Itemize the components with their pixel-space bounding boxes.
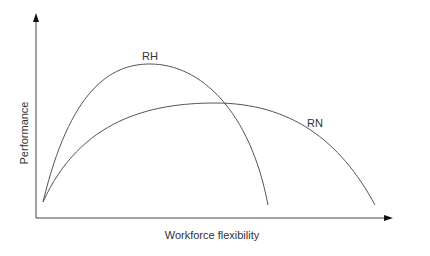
diagram-canvas: RH RN Workforce flexibility Performance (0, 0, 430, 256)
y-axis-label: Performance (18, 102, 30, 165)
x-axis-arrow-icon (384, 215, 393, 221)
curve-rh (43, 64, 268, 205)
curve-label-rh: RH (142, 50, 158, 62)
y-axis-arrow-icon (33, 13, 39, 22)
curve-label-rn: RN (307, 117, 323, 129)
curve-rn (43, 103, 375, 205)
x-axis-label: Workforce flexibility (165, 229, 260, 241)
